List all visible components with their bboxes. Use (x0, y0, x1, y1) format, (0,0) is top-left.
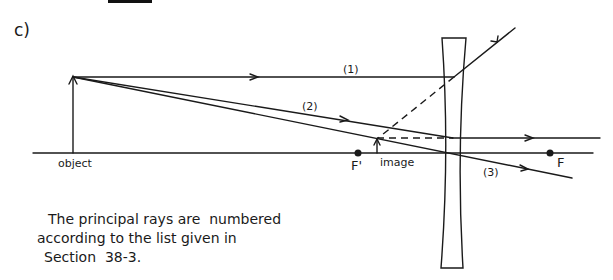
ray-2-label: (2) (302, 100, 318, 113)
focal-point-near-dot (355, 150, 362, 157)
ray-2 (73, 77, 600, 141)
caption-line-1: The principal rays are numbered (47, 211, 281, 227)
object-arrow (69, 76, 77, 153)
focal-point-near-label: F' (351, 158, 362, 173)
ray-3 (73, 77, 572, 178)
focal-point-far-dot (547, 150, 554, 157)
top-bar (108, 0, 152, 3)
image-arrow (374, 139, 380, 153)
ray-3-label: (3) (483, 166, 499, 179)
part-label: c) (14, 20, 30, 40)
focal-point-far-label: F (557, 155, 564, 170)
image-label: image (380, 156, 414, 169)
object-label: object (58, 157, 93, 170)
caption-line-3: Section 38-3. (44, 249, 141, 265)
ray-1-label: (1) (343, 63, 359, 76)
ray-diagram: c) object (1) (2) (3) image F' F (0, 0, 613, 280)
caption-line-2: according to the list given in (37, 230, 237, 246)
